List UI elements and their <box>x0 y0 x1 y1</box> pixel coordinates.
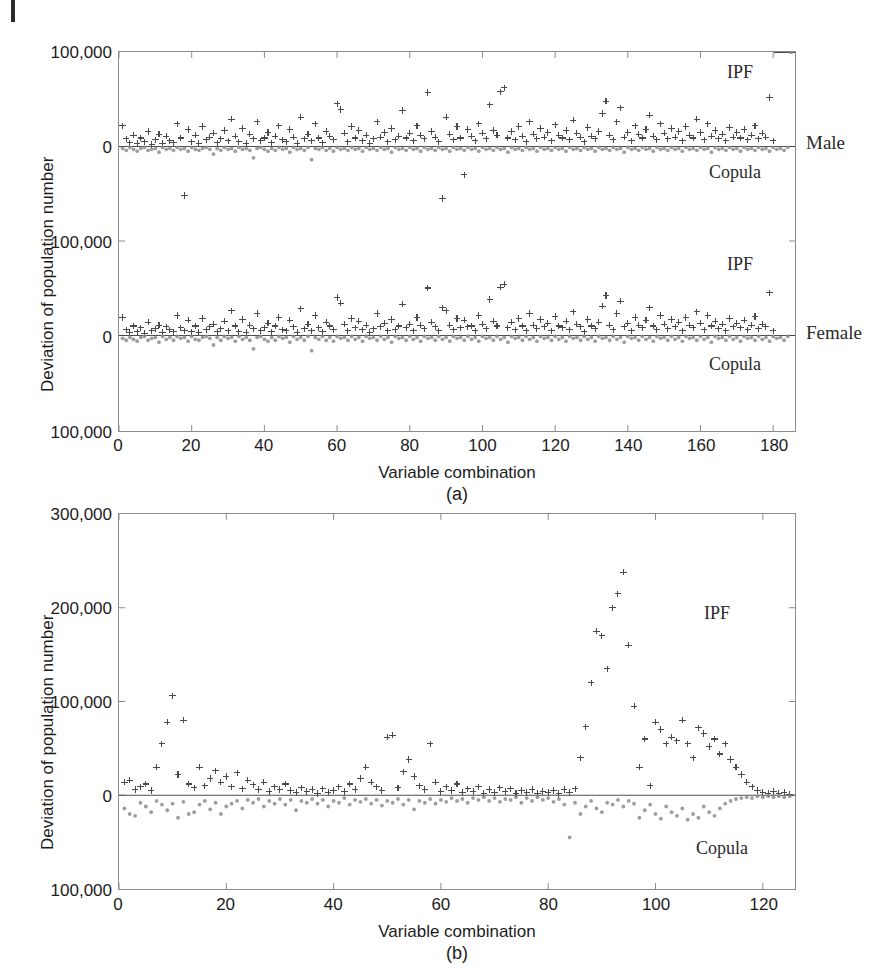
y-tick-a-1: 0 <box>103 139 112 156</box>
figure-a-y-axis-title: Deviation of population number <box>38 157 58 392</box>
x-tick-xticks-b-0: 0 <box>88 896 148 913</box>
y-tick-b-2: 100,000 <box>51 694 112 711</box>
x-tick-xticks-a-6: 120 <box>525 437 585 454</box>
y-tick-b-0: 300,000 <box>51 506 112 523</box>
figure-b-y-axis-title: Deviation of population number <box>38 615 58 850</box>
y-tick-b-1: 200,000 <box>51 600 112 617</box>
y-tick-a-3: 0 <box>103 329 112 346</box>
annotation-copula-female: Copula <box>709 355 761 373</box>
x-tick-xticks-a-3: 60 <box>307 437 367 454</box>
x-tick-xticks-b-1: 20 <box>196 896 256 913</box>
x-tick-xticks-b-4: 80 <box>518 896 578 913</box>
x-tick-xticks-a-9: 180 <box>744 437 804 454</box>
figure-b: 300,000 200,000 100,000 0 100,000 Deviat… <box>0 500 891 975</box>
figure-b-scatter-canvas <box>119 514 795 889</box>
x-tick-xticks-a-4: 80 <box>380 437 440 454</box>
y-tick-a-0: 100,000 <box>51 44 112 61</box>
x-tick-xticks-a-5: 100 <box>453 437 513 454</box>
figure-b-plot-area: IPF Copula <box>118 513 796 890</box>
x-tick-xticks-a-0: 0 <box>88 437 148 454</box>
figure-b-panel-label: (b) <box>118 943 796 964</box>
y-tick-a-2: 100,000 <box>51 234 112 251</box>
x-tick-xticks-b-2: 40 <box>303 896 363 913</box>
figure-a: 100,000 0 100,000 0 100,000 Deviation of… <box>0 0 891 500</box>
annotation-ipf-female: IPF <box>727 255 753 273</box>
x-tick-xticks-b-3: 60 <box>411 896 471 913</box>
y-tick-b-3: 0 <box>103 788 112 805</box>
annotation-ipf-b: IPF <box>704 604 730 622</box>
figure-a-scatter-canvas <box>119 52 795 431</box>
x-tick-xticks-b-6: 120 <box>734 896 794 913</box>
annotation-copula-male: Copula <box>709 163 761 181</box>
side-label-male: Male <box>806 133 845 152</box>
x-tick-xticks-a-2: 40 <box>234 437 294 454</box>
x-tick-xticks-a-7: 140 <box>598 437 658 454</box>
figure-a-plot-area: IPF Copula IPF Copula <box>118 51 796 432</box>
annotation-ipf-male: IPF <box>727 63 753 81</box>
figure-b-x-axis-title: Variable combination <box>118 922 796 942</box>
figure-a-x-axis-title: Variable combination <box>118 463 796 483</box>
x-tick-xticks-a-8: 160 <box>671 437 731 454</box>
x-tick-xticks-b-5: 100 <box>626 896 686 913</box>
side-label-female: Female <box>806 323 862 342</box>
x-tick-xticks-a-1: 20 <box>161 437 221 454</box>
annotation-copula-b: Copula <box>696 839 748 857</box>
